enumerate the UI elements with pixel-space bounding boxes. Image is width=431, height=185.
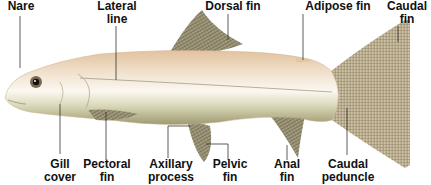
label-gill-cover: Gill cover <box>36 158 84 184</box>
label-anal-fin: Anal fin <box>268 158 306 184</box>
label-nare: Nare <box>0 0 42 13</box>
fish-body <box>5 50 339 124</box>
caudal-fin-shape <box>330 20 410 168</box>
label-caudal-fin: Caudal fin <box>382 0 431 26</box>
dorsal-fin-shape <box>170 10 243 52</box>
label-dorsal-fin: Dorsal fin <box>196 0 270 13</box>
label-lateral-line: Lateral line <box>92 0 142 26</box>
label-adipose-fin: Adipose fin <box>295 0 381 13</box>
label-pelvic-fin: Pelvic fin <box>207 158 253 184</box>
label-caudal-peduncle: Caudal peduncle <box>318 158 378 184</box>
label-pectoral-fin: Pectoral fin <box>80 158 134 184</box>
label-axillary-process: Axillary process <box>143 158 199 184</box>
